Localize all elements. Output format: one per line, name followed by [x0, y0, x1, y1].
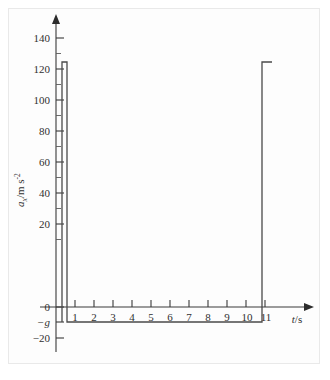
x-label-9: 9 [224, 311, 230, 323]
y-axis-arrow-icon [52, 14, 60, 24]
y-label-20: 20 [39, 218, 51, 230]
x-label-7: 7 [186, 311, 192, 323]
data-trace-group [62, 62, 272, 322]
x-label-4: 4 [129, 311, 135, 323]
y-axis-title-superscript: -2 [13, 173, 22, 179]
y-axis-major-ticks [56, 38, 64, 338]
y-label-140: 140 [34, 32, 51, 44]
acceleration-time-chart: 140 120 100 80 60 40 20 0 −g −20 1 2 3 4… [0, 0, 330, 380]
y-label-120: 120 [34, 63, 51, 75]
x-label-1: 1 [72, 311, 78, 323]
y-label-40: 40 [39, 187, 51, 199]
y-label-100: 100 [34, 94, 51, 106]
x-axis [40, 303, 314, 311]
figure-container: 140 120 100 80 60 40 20 0 −g −20 1 2 3 4… [0, 0, 330, 380]
x-axis-ticks [75, 300, 265, 307]
y-label-0: 0 [45, 301, 51, 313]
y-axis [52, 14, 60, 352]
x-label-3: 3 [110, 311, 116, 323]
y-tick-labels: 140 120 100 80 60 40 20 0 −g −20 [33, 32, 51, 344]
y-label-minus-20: −20 [33, 332, 51, 344]
x-label-2: 2 [91, 311, 97, 323]
y-label-minus-g: −g [37, 316, 50, 328]
svg-text:t/s: t/s [292, 313, 302, 325]
x-axis-title: t/s [292, 313, 302, 325]
acceleration-trace [62, 62, 272, 322]
y-axis-title-unit: /m s [14, 179, 26, 198]
svg-text:ax/m s-2: ax/m s-2 [13, 173, 29, 207]
x-label-6: 6 [167, 311, 173, 323]
x-axis-title-unit: /s [295, 313, 302, 325]
x-axis-arrow-icon [304, 303, 314, 311]
y-axis-title: ax/m s-2 [13, 173, 29, 207]
x-tick-labels: 1 2 3 4 5 6 7 8 9 10 11 [72, 311, 271, 323]
x-label-10: 10 [242, 311, 254, 323]
x-label-5: 5 [148, 311, 154, 323]
y-axis-minor-ticks [56, 54, 61, 240]
x-label-11: 11 [261, 311, 272, 323]
x-label-8: 8 [205, 311, 211, 323]
y-label-80: 80 [39, 125, 51, 137]
y-label-60: 60 [39, 156, 51, 168]
